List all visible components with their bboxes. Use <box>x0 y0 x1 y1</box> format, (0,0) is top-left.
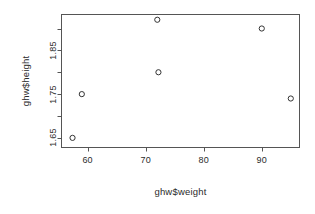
x-tick-label: 80 <box>192 155 216 166</box>
data-point <box>79 92 84 97</box>
y-axis-title: ghw$height <box>20 26 32 136</box>
x-axis-ticks <box>89 148 263 152</box>
y-tick-label: 1.75 <box>47 82 58 106</box>
data-point-group <box>70 17 293 140</box>
data-point <box>259 26 264 31</box>
x-axis-title: ghw$weight <box>101 186 261 198</box>
x-tick-label: 70 <box>134 155 158 166</box>
y-tick-label: 1.65 <box>47 126 58 150</box>
x-tick-label: 60 <box>76 155 100 166</box>
data-point <box>70 135 75 140</box>
r-scatter-plot: 1.851.751.65 60708090 ghw$height ghw$wei… <box>0 0 315 214</box>
y-tick-label: 1.85 <box>47 38 58 62</box>
plot-frame-box <box>62 15 300 148</box>
data-point <box>288 96 293 101</box>
data-point <box>156 70 161 75</box>
x-tick-label: 90 <box>250 155 274 166</box>
plot-canvas <box>0 0 315 214</box>
data-point <box>155 17 160 22</box>
